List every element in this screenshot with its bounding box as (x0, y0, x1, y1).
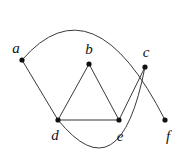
graph-vertex-label-f: f (166, 129, 170, 144)
graph-canvas (0, 0, 184, 157)
graph-vertex-c (142, 64, 147, 69)
graph-vertex-d (55, 117, 60, 122)
graph-vertex-f (162, 117, 167, 122)
graph-vertex-b (86, 61, 91, 66)
graph-vertex-a (19, 57, 24, 62)
graph-vertex-e (116, 117, 121, 122)
vertex-layer (19, 57, 167, 122)
graph-vertex-label-b: b (85, 42, 93, 57)
graph-edge-b-e (89, 64, 119, 120)
graph-edge-a-d (22, 60, 58, 120)
graph-edge-c-e (119, 67, 145, 120)
graph-vertex-label-c: c (143, 45, 150, 60)
graph-figure: abcdef (0, 0, 184, 157)
graph-edge-b-d (58, 64, 89, 120)
graph-vertex-label-d: d (51, 128, 59, 143)
graph-vertex-label-e: e (117, 129, 124, 144)
graph-vertex-label-a: a (12, 41, 20, 56)
graph-edge-c-d (58, 67, 145, 148)
